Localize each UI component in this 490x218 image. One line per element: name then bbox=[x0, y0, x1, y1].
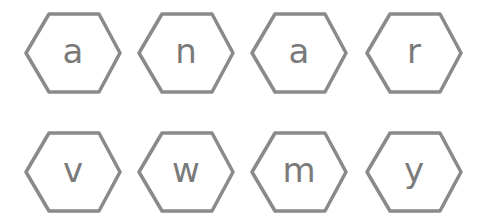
letter-tile[interactable]: a bbox=[250, 12, 348, 94]
tile-letter: m bbox=[250, 131, 348, 213]
tile-letter: y bbox=[365, 131, 463, 213]
letter-tile[interactable]: n bbox=[137, 12, 235, 94]
letter-tile[interactable]: a bbox=[24, 12, 122, 94]
letter-tile[interactable]: y bbox=[365, 131, 463, 213]
tile-letter: r bbox=[365, 12, 463, 94]
letter-tile[interactable]: w bbox=[137, 131, 235, 213]
letter-tile[interactable]: v bbox=[24, 131, 122, 213]
tile-letter: v bbox=[24, 131, 122, 213]
tile-letter: n bbox=[137, 12, 235, 94]
letter-tile[interactable]: r bbox=[365, 12, 463, 94]
tile-letter: a bbox=[24, 12, 122, 94]
letter-tile[interactable]: m bbox=[250, 131, 348, 213]
tile-letter: w bbox=[137, 131, 235, 213]
tile-letter: a bbox=[250, 12, 348, 94]
